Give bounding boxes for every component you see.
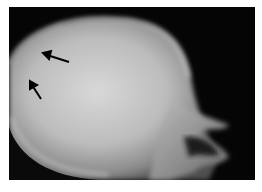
xray-image (9, 7, 255, 180)
